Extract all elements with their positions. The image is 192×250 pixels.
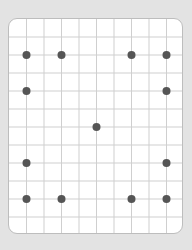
grid-dot — [163, 51, 171, 59]
grid-dot — [23, 87, 31, 95]
dot-grid — [9, 19, 183, 234]
grid-dot — [58, 195, 66, 203]
grid-dot — [58, 51, 66, 59]
grid-dot — [93, 123, 101, 131]
grid-dot — [23, 51, 31, 59]
grid-dot — [128, 51, 136, 59]
grid-dot — [163, 195, 171, 203]
grid-dot — [23, 159, 31, 167]
grid-dot — [163, 159, 171, 167]
grid-dot — [163, 87, 171, 95]
grid-dot — [128, 195, 136, 203]
grid-dot — [23, 195, 31, 203]
grid-card — [8, 18, 183, 234]
